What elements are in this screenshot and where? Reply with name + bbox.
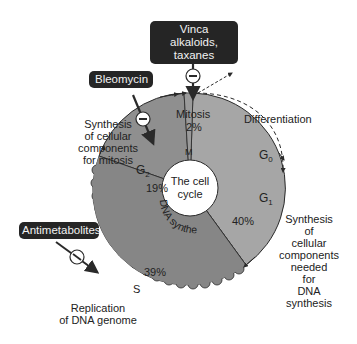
s-phase-label: S (133, 283, 140, 295)
description-line: of cellular (78, 130, 138, 142)
g2-subscript: 2 (145, 170, 149, 179)
description-line: for mitosis (78, 154, 138, 166)
center-label-line: cycle (165, 188, 215, 201)
g0-label: G0 (259, 148, 273, 164)
s-description: Replication of DNA genome (58, 302, 138, 326)
m-phase-label: M (185, 147, 193, 157)
drug-label: Bleomycin (95, 73, 148, 85)
drug-label: Antimetabolites (22, 224, 101, 236)
description-line: DNA (279, 285, 339, 297)
g1-description: Synthesis of cellular components needed … (279, 213, 339, 309)
g1-letter: G (259, 191, 268, 205)
m-percent: 2% (186, 121, 202, 133)
g2-phase-label: G2 (136, 163, 150, 179)
description-line: of DNA genome (58, 314, 138, 326)
mitosis-label: Mitosis (176, 108, 210, 120)
g1-subscript: 1 (268, 198, 272, 207)
description-line: Synthesis (279, 213, 339, 225)
drug-box-bleomycin: Bleomycin (89, 71, 153, 88)
drug-label-line: Vinca alkaloids, (156, 23, 232, 49)
description-line: cellular (279, 237, 339, 249)
g1-phase-label: G1 (259, 191, 273, 207)
g2-description: Synthesis of cellular components for mit… (78, 118, 138, 166)
differentiation-arrow (198, 73, 232, 93)
g0-subscript: 0 (268, 155, 272, 164)
g2-letter: G (136, 163, 145, 177)
s-percent: 39% (144, 266, 166, 278)
g1-percent: 40% (232, 215, 254, 227)
description-line: synthesis (279, 297, 339, 309)
description-line: needed (279, 261, 339, 273)
center-label-line: The cell (165, 175, 215, 188)
description-line: components (279, 249, 339, 261)
cell-cycle-diagram: DNA synthesis Vinca alkaloids, taxanes B… (0, 0, 357, 344)
description-line: components (78, 142, 138, 154)
description-line: for (279, 273, 339, 285)
drug-box-vinca-alkaloids: Vinca alkaloids, taxanes (150, 21, 238, 64)
description-line: of (279, 225, 339, 237)
description-line: Replication (58, 302, 138, 314)
drug-label-line: taxanes (156, 49, 232, 62)
g0-letter: G (259, 148, 268, 162)
differentiation-label: Differentiation (244, 113, 312, 125)
center-label: The cell cycle (165, 175, 215, 201)
description-line: Synthesis (78, 118, 138, 130)
drug-box-antimetabolites: Antimetabolites (19, 222, 99, 239)
